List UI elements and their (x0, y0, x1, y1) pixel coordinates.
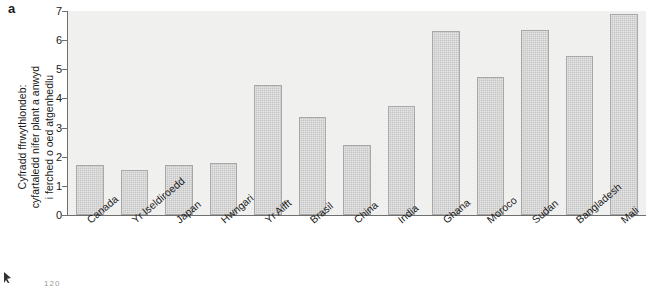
panel-letter-label: a (8, 2, 15, 15)
y-axis-title-line-2: cyfartaledd nifer plant a anwyd (29, 66, 43, 208)
x-axis-tick-labels: CanadaYr IseldiroeddJapanHwngariYr Aifft… (67, 217, 645, 290)
bar (388, 106, 416, 215)
y-axis-title-line-1: Cyfradd ffrwythlondeb: (16, 85, 30, 190)
page-scan-artifact-icon (4, 272, 11, 283)
bar (254, 85, 282, 215)
y-axis-tick-labels: 01234567 (44, 11, 62, 215)
bar (566, 56, 594, 215)
page-number-artifact: 120 (44, 279, 60, 288)
figure-panel-a: a Cyfradd ffrwythlondeb: cyfartaledd nif… (0, 0, 649, 290)
bar-series (68, 11, 646, 215)
plot-area (67, 11, 646, 216)
bar (521, 30, 549, 215)
y-tick-mark (62, 215, 68, 216)
bar (299, 117, 327, 215)
bar (477, 77, 505, 215)
bar (432, 31, 460, 215)
